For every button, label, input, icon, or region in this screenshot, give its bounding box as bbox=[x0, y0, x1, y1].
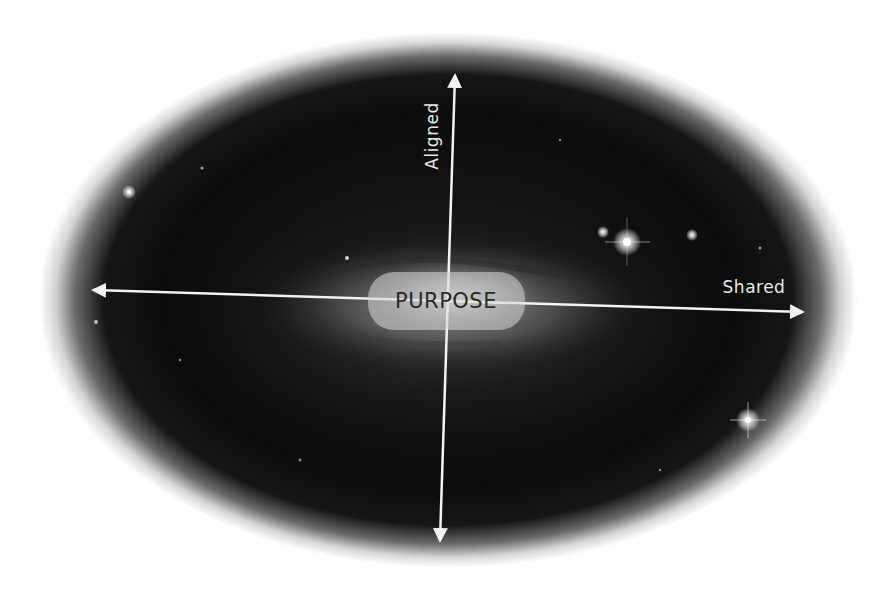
aligned-label: Aligned bbox=[422, 102, 442, 169]
diagram-canvas: PURPOSE Aligned Shared bbox=[0, 0, 890, 605]
purpose-badge: PURPOSE bbox=[368, 272, 525, 330]
purpose-label: PURPOSE bbox=[395, 289, 497, 313]
shared-label: Shared bbox=[723, 277, 786, 297]
